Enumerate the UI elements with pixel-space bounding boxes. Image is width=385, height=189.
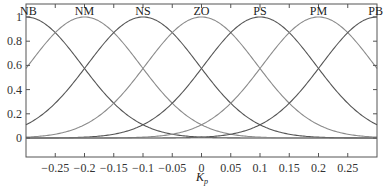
mf-label-ps: PS xyxy=(253,4,266,18)
curve-nb xyxy=(26,17,377,138)
x-axis-label: Kp xyxy=(195,170,208,186)
curve-nm xyxy=(26,17,377,138)
x-axis-label-sub: p xyxy=(203,177,208,186)
x-tick-label: −0.25 xyxy=(41,161,69,175)
y-tick-label: 0 xyxy=(16,131,22,145)
x-tick-label: 0.15 xyxy=(279,161,300,175)
membership-function-chart: −0.25−0.2−0.15−0.1−0.0500.050.10.150.20.… xyxy=(0,0,385,189)
x-tick-label: −0.2 xyxy=(74,161,96,175)
mf-labels: NBNMNSZOPSPMPB xyxy=(20,4,383,18)
mf-label-nm: NM xyxy=(75,4,95,18)
plot-frame xyxy=(26,4,377,157)
x-tick-label: 0.05 xyxy=(220,161,241,175)
x-tick-label: 0.2 xyxy=(311,161,326,175)
mf-label-pb: PB xyxy=(368,4,383,18)
curve-ps xyxy=(26,17,377,138)
curve-pb xyxy=(26,17,377,138)
y-tick-label: 0.2 xyxy=(7,107,22,121)
x-tick-label: −0.1 xyxy=(132,161,154,175)
x-tick-label: 0.1 xyxy=(253,161,268,175)
y-tick-label: 0.4 xyxy=(7,83,22,97)
mf-label-pm: PM xyxy=(310,4,328,18)
curve-pm xyxy=(26,17,377,138)
membership-curves xyxy=(26,17,377,138)
curve-ns xyxy=(26,17,377,138)
mf-label-ns: NS xyxy=(135,4,150,18)
x-tick-label: −0.15 xyxy=(100,161,128,175)
mf-label-zo: ZO xyxy=(194,4,210,18)
y-tick-label: 0.6 xyxy=(7,58,22,72)
x-tick-label: 0.25 xyxy=(337,161,358,175)
x-tick-label: −0.05 xyxy=(158,161,186,175)
x-axis-ticks: −0.25−0.2−0.15−0.1−0.0500.050.10.150.20.… xyxy=(41,4,358,175)
y-tick-label: 0.8 xyxy=(7,34,22,48)
y-axis-ticks: 00.20.40.60.81 xyxy=(7,10,377,145)
mf-label-nb: NB xyxy=(20,4,37,18)
curve-zo xyxy=(26,17,377,137)
